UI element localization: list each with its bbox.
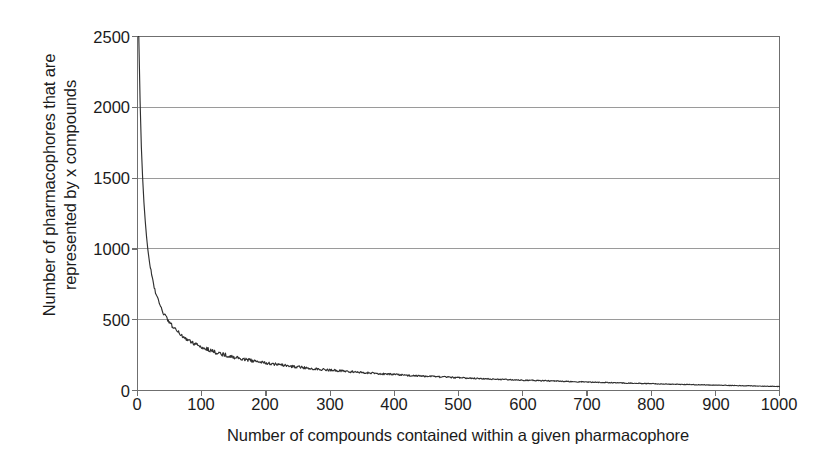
- plot-frame: [138, 37, 780, 391]
- gridlines: [138, 37, 780, 320]
- plot-area: [0, 0, 829, 475]
- axis-ticks: [132, 37, 780, 397]
- chart-figure: Number of pharmacophores that are repres…: [0, 0, 829, 475]
- data-series-line: [138, 37, 779, 387]
